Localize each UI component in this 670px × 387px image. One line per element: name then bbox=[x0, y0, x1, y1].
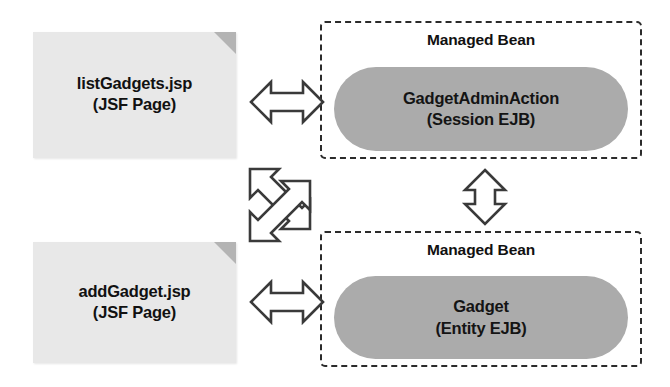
managed-bean-entity-title: Managed Bean bbox=[322, 241, 640, 259]
jsp-document-list-gadgets-line2: (JSF Page) bbox=[33, 94, 236, 115]
bean-shape-gadget: Gadget (Entity EJB) bbox=[334, 276, 628, 359]
bean-gadget-line1: Gadget bbox=[453, 297, 509, 315]
jsp-document-add-gadget-line1: addGadget.jsp bbox=[79, 282, 191, 300]
connector-cross-page-bean-links bbox=[247, 166, 325, 244]
page-fold-icon bbox=[214, 242, 236, 264]
connector-list-page-to-session-bean bbox=[249, 76, 325, 128]
connector-add-page-to-entity-bean bbox=[249, 276, 325, 328]
jsp-document-list-gadgets: listGadgets.jsp (JSF Page) bbox=[33, 32, 236, 158]
bean-shape-gadget-admin-action: GadgetAdminAction (Session EJB) bbox=[334, 67, 628, 151]
jsp-document-add-gadget-label: addGadget.jsp (JSF Page) bbox=[33, 281, 236, 323]
bean-gadget-admin-action-line2: (Session EJB) bbox=[403, 109, 559, 130]
managed-bean-container-session: Managed Bean GadgetAdminAction (Session … bbox=[320, 21, 642, 159]
bean-gadget-admin-action-line1: GadgetAdminAction bbox=[403, 89, 559, 107]
jsp-document-list-gadgets-line1: listGadgets.jsp bbox=[77, 74, 192, 92]
managed-bean-session-title: Managed Bean bbox=[322, 31, 640, 49]
bean-shape-gadget-admin-action-label: GadgetAdminAction (Session EJB) bbox=[403, 88, 559, 131]
jsp-document-list-gadgets-label: listGadgets.jsp (JSF Page) bbox=[33, 73, 236, 115]
page-fold-icon bbox=[214, 32, 236, 54]
connector-session-bean-to-entity-bean bbox=[461, 168, 509, 226]
diagram-canvas: listGadgets.jsp (JSF Page) addGadget.jsp… bbox=[0, 0, 670, 387]
managed-bean-container-entity: Managed Bean Gadget (Entity EJB) bbox=[320, 231, 642, 367]
jsp-document-add-gadget: addGadget.jsp (JSF Page) bbox=[33, 242, 236, 363]
bean-gadget-line2: (Entity EJB) bbox=[435, 318, 526, 339]
bean-shape-gadget-label: Gadget (Entity EJB) bbox=[435, 296, 526, 339]
jsp-document-add-gadget-line2: (JSF Page) bbox=[33, 302, 236, 323]
